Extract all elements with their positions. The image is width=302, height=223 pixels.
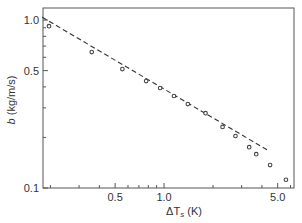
data-point-marker xyxy=(144,79,148,83)
data-point-marker xyxy=(121,67,125,71)
x-tick-label: 5.0 xyxy=(270,191,285,203)
chart: 0.51.05.0 0.10.51.0 ΔTs (K) b (kg/m/s) xyxy=(0,0,302,223)
plot-frame xyxy=(43,8,294,188)
y-tick-label: 0.1 xyxy=(24,182,39,194)
x-axis-label: ΔTs (K) xyxy=(166,205,202,219)
data-point-marker xyxy=(247,145,251,149)
y-tick-label: 1.0 xyxy=(24,14,39,26)
data-point-marker xyxy=(254,152,258,156)
data-point-marker xyxy=(284,178,288,182)
data-point-marker xyxy=(186,102,190,106)
x-axis-ticks: 0.51.05.0 xyxy=(50,183,290,203)
y-tick-label: 0.5 xyxy=(24,65,39,77)
data-point-marker xyxy=(204,111,208,115)
x-tick-label: 1.0 xyxy=(156,191,171,203)
fit-line xyxy=(42,17,269,151)
data-point-marker xyxy=(234,134,238,138)
dashed-fit-line xyxy=(42,17,269,151)
data-point-marker xyxy=(221,125,225,129)
data-point-marker xyxy=(158,86,162,90)
data-points xyxy=(47,24,288,181)
data-point-marker xyxy=(47,24,51,28)
data-point-marker xyxy=(90,50,94,54)
data-point-marker xyxy=(268,163,272,167)
data-point-marker xyxy=(172,94,176,98)
y-axis-label: b (kg/m/s) xyxy=(5,76,17,125)
y-axis-ticks: 0.10.51.0 xyxy=(24,14,48,194)
x-tick-label: 0.5 xyxy=(107,191,122,203)
